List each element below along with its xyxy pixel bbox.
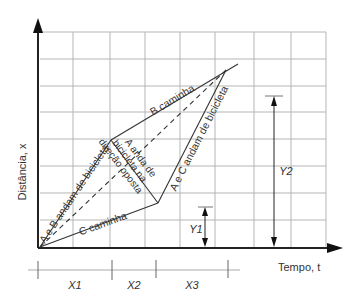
x1-label: X1: [67, 279, 81, 291]
x-axis: [38, 243, 343, 253]
grid: [40, 32, 326, 247]
y-axis: [33, 18, 43, 248]
distance-time-diagram: Distância, x Tempo, t X1 X2 X3 Y1 Y2 A e…: [0, 0, 356, 302]
c-walk-label: C caminha: [77, 209, 128, 237]
y2-label: Y2: [279, 165, 292, 177]
x3-label: X3: [184, 279, 199, 291]
x-axis-arrow-icon: [327, 243, 343, 253]
x-axis-label: Tempo, t: [278, 261, 320, 273]
x2-label: X2: [126, 279, 140, 291]
y-axis-label: Distância, x: [16, 143, 28, 200]
x-interval-bar: [28, 260, 240, 280]
y-axis-arrow-icon: [33, 18, 43, 33]
y1-label: Y1: [189, 223, 202, 235]
